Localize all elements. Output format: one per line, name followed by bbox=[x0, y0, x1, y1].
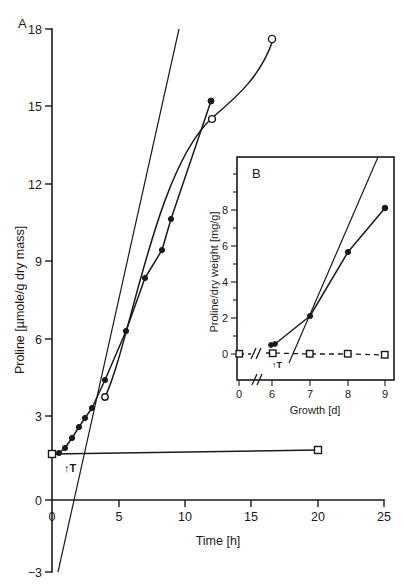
panel-a-ytick-15: 15 bbox=[28, 100, 42, 114]
panel-b-label: B bbox=[252, 166, 261, 181]
panel-a-xtick-5: 5 bbox=[116, 510, 123, 524]
panel-a-ytick-18: 18 bbox=[28, 23, 42, 37]
panel-a-treated-markers bbox=[56, 98, 214, 456]
panel-a-x-axis-title: Time [h] bbox=[196, 534, 241, 548]
panel-a-ytick-neg3: −3 bbox=[28, 566, 42, 580]
panel-a-xtick-15: 15 bbox=[244, 510, 258, 524]
panel-a-y-axis-title: Proline [µmole/g dry mass] bbox=[13, 226, 27, 374]
panel-a-ytick-0: 0 bbox=[35, 494, 42, 508]
panel-b-xtick-6: 6 bbox=[269, 388, 275, 400]
panel-b-ytick-8: 8 bbox=[222, 204, 228, 216]
panel-b-y-axis-title: Proline/dry weight [mg/g] bbox=[208, 211, 220, 332]
panel-b-frame bbox=[237, 157, 394, 380]
panel-a-ytick-6: 6 bbox=[35, 333, 42, 347]
panel-a-x-ticks bbox=[119, 500, 384, 507]
panel-b-ytick-6: 6 bbox=[222, 240, 228, 252]
panel-a-xtick-20: 20 bbox=[311, 510, 325, 524]
panel-b-xtick-7: 7 bbox=[307, 388, 313, 400]
panel-b-treatment-annotation: ↑T bbox=[272, 360, 283, 370]
panel-a-baseline-line bbox=[52, 450, 318, 454]
panel-a-ytick-3: 3 bbox=[35, 410, 42, 424]
panel-a-y-ticks bbox=[45, 29, 52, 572]
panel-b-group: B 8 6 4 2 0 bbox=[208, 157, 394, 416]
panel-b-x-ticks bbox=[239, 380, 385, 386]
panel-a-treated-curve bbox=[59, 101, 211, 453]
panel-a-ytick-12: 12 bbox=[28, 178, 42, 192]
panel-b-ytick-0: 0 bbox=[222, 348, 228, 360]
panel-b-xtick-9: 9 bbox=[382, 388, 388, 400]
panel-b-ytick-2: 2 bbox=[222, 312, 228, 324]
panel-b-ytick-4: 4 bbox=[222, 276, 228, 288]
panel-a-ytick-9: 9 bbox=[35, 255, 42, 269]
panel-b-xtick-8: 8 bbox=[345, 388, 351, 400]
panel-a-label: A bbox=[18, 16, 27, 31]
panel-a-regression-line bbox=[58, 29, 179, 572]
panel-b-y-ticks bbox=[231, 210, 237, 354]
figure-container: A 18 15 12 9 6 3 0 −3 bbox=[0, 0, 404, 588]
panel-a-xtick-0: 0 bbox=[49, 510, 56, 524]
figure-svg: A 18 15 12 9 6 3 0 −3 bbox=[0, 0, 404, 588]
panel-a-treatment-annotation: ↑T bbox=[64, 462, 77, 474]
panel-a-xtick-25: 25 bbox=[377, 510, 391, 524]
panel-b-xtick-0: 0 bbox=[236, 388, 242, 400]
panel-a-xtick-10: 10 bbox=[178, 510, 192, 524]
panel-b-x-axis-title: Growth [d] bbox=[290, 404, 341, 416]
